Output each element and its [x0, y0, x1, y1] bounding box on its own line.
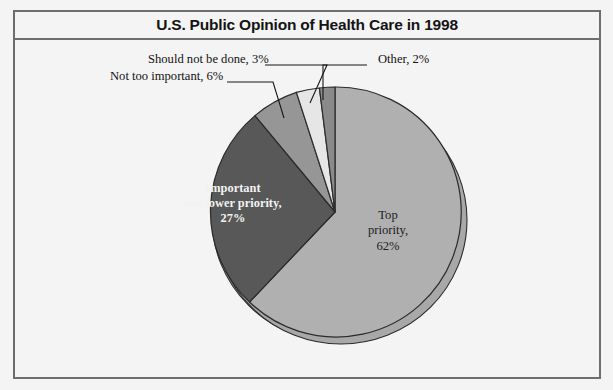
frame-right-rule	[599, 10, 601, 379]
slice-label-line-3: 62%	[340, 239, 436, 254]
chart-title: U.S. Public Opinion of Health Care in 19…	[15, 12, 599, 38]
pie-chart-area: Should not be done, 3% Not too important…	[15, 40, 599, 377]
callout-other: Other, 2%	[378, 52, 429, 67]
callout-not-too-important: Not too important, 6%	[110, 69, 223, 84]
callout-should-not-be-done: Should not be done, 3%	[148, 52, 269, 67]
slice-label-line-2: but lower priority,	[158, 196, 308, 211]
slice-label-line-3: 27%	[158, 211, 308, 226]
slice-label-line-1: Top	[340, 208, 436, 223]
chart-figure: U.S. Public Opinion of Health Care in 19…	[0, 0, 613, 390]
slice-label-top-priority: Top priority, 62%	[340, 208, 436, 254]
slice-label-line-1: Important	[158, 181, 308, 196]
slice-label-line-2: priority,	[340, 223, 436, 238]
slice-label-important-lower-priority: Important but lower priority, 27%	[158, 181, 308, 226]
frame-bottom-rule	[13, 377, 601, 379]
